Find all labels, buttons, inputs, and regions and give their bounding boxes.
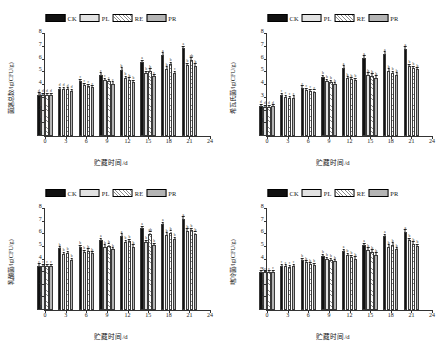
bar-group: abbb <box>403 34 419 136</box>
significance-label: b <box>121 64 123 68</box>
significance-label: b <box>416 240 418 244</box>
error-bar <box>285 265 286 266</box>
bar-ck: c <box>280 209 283 310</box>
x-axis-tick-label: 6 <box>85 312 88 318</box>
plot-area: ddddccccccccbbbbabbbabbbabbbabbb01234567… <box>266 34 432 137</box>
error-bar <box>154 75 155 76</box>
x-axis-tick-label: 18 <box>388 138 394 144</box>
legend-swatch-pl <box>302 189 322 197</box>
error-bar <box>413 242 414 244</box>
significance-label: c <box>46 260 48 264</box>
bar-rect <box>66 253 69 310</box>
bar-rect <box>374 78 377 136</box>
significance-label: b <box>313 259 315 263</box>
significance-label: c <box>91 82 93 86</box>
bar-rect <box>370 76 373 136</box>
bar-group: ababb <box>140 209 156 310</box>
bar-rect <box>309 264 312 310</box>
error-bar <box>108 80 109 81</box>
significance-label: c <box>87 80 89 84</box>
bar-ck: b <box>321 209 324 310</box>
bar-pl: b <box>165 34 168 136</box>
bar-pr: b <box>132 34 135 136</box>
bar-pl: c <box>284 34 287 136</box>
significance-label: c <box>50 260 52 264</box>
bar-pl: b <box>124 209 127 310</box>
significance-label: b <box>133 76 135 80</box>
error-bar <box>289 97 290 98</box>
legend-swatch-pl <box>302 14 322 22</box>
bar-pr: b <box>333 34 336 136</box>
y-axis-tick-label: 7 <box>39 216 44 222</box>
bar-rect <box>383 236 386 310</box>
x-axis-tick-label: 9 <box>105 312 108 318</box>
bar-rect <box>132 247 135 310</box>
significance-label: b <box>355 253 357 257</box>
error-bar <box>146 241 147 242</box>
error-bar <box>405 230 406 232</box>
error-bar <box>84 251 85 252</box>
significance-label: c <box>285 91 287 95</box>
bar-group: bbbb <box>120 34 136 136</box>
bar-ck: a <box>99 209 102 310</box>
bar-group: abbc <box>140 34 156 136</box>
error-bar <box>368 248 369 249</box>
significance-label: b <box>129 235 131 239</box>
bar-re: b <box>370 34 373 136</box>
significance-label: d <box>268 101 270 105</box>
significance-label: b <box>186 59 188 63</box>
significance-label: a <box>343 245 345 249</box>
bar-rect <box>329 260 332 310</box>
bar-rect <box>173 73 176 136</box>
bar-pr: c <box>91 34 94 136</box>
bar-rect <box>124 242 127 310</box>
bar-ck: c <box>301 34 304 136</box>
significance-label: b <box>309 259 311 263</box>
significance-label: b <box>149 65 151 69</box>
error-bar <box>154 244 155 245</box>
significance-label: b <box>125 236 127 240</box>
error-bar <box>405 47 406 49</box>
error-bar <box>121 234 122 236</box>
error-bar <box>50 265 51 266</box>
bar-group: abbb <box>99 209 115 310</box>
bar-group: cccc <box>78 34 94 136</box>
bar-pl: b <box>346 34 349 136</box>
bar-rect <box>325 81 328 136</box>
legend-label-ck: CK <box>68 190 77 197</box>
bar-rect <box>280 95 283 136</box>
significance-label: b <box>388 65 390 69</box>
error-bar <box>388 245 389 246</box>
bar-rect <box>391 73 394 136</box>
significance-label: a <box>384 48 386 52</box>
significance-label: b <box>87 245 89 249</box>
bar-pr: c <box>313 34 316 136</box>
significance-label: b <box>388 241 390 245</box>
error-bar <box>112 82 113 83</box>
x-axis-tick-label: 6 <box>307 138 310 144</box>
bar-rect <box>383 54 386 136</box>
significance-label: b <box>330 254 332 258</box>
y-axis-tick-label: 2 <box>39 105 44 111</box>
error-bar <box>302 259 303 260</box>
bar-pl: b <box>103 209 106 310</box>
legend-swatch-pr <box>146 189 166 197</box>
significance-label: b <box>170 227 172 231</box>
significance-label: b <box>412 238 414 242</box>
chart-panel-bottom-right: CKPLREPR嗜冷菌/lg(CFU/g)贮藏时间/dccccccccbbbbb… <box>222 175 444 349</box>
legend-label-ck: CK <box>290 190 299 197</box>
significance-label: c <box>281 89 283 93</box>
significance-label: b <box>166 63 168 67</box>
bar-rect <box>346 255 349 310</box>
chart-legend: CKPLREPR <box>46 189 177 197</box>
y-axis-tick-label: 3 <box>39 266 44 272</box>
bar-ck: a <box>362 209 365 310</box>
significance-label: a <box>121 230 123 234</box>
error-bar <box>71 259 72 260</box>
bar-group: dddd <box>58 34 74 136</box>
bar-group: abbc <box>161 34 177 136</box>
legend-item-ck: CK <box>46 14 77 22</box>
error-bar <box>330 259 331 260</box>
bar-rect <box>194 234 197 310</box>
y-axis-tick-label: 1 <box>39 291 44 297</box>
